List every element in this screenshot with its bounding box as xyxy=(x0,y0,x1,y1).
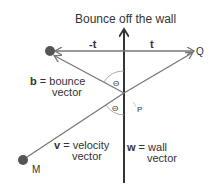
w-symbol: w xyxy=(127,141,136,153)
diagram-title: Bounce off the wall xyxy=(75,14,176,25)
t-label: t xyxy=(150,39,154,50)
theta-lower-label: Θ xyxy=(112,103,118,114)
neg-t-label: -t xyxy=(89,39,96,50)
bounce-vector-label-line2: vector xyxy=(52,87,82,98)
theta-upper-label: Θ xyxy=(113,78,119,89)
ball-bounced xyxy=(45,46,55,56)
wall-vector-label-line2: vector xyxy=(147,153,177,164)
ball-start xyxy=(18,155,28,165)
reflected-line-to-q xyxy=(124,53,192,93)
m-label: M xyxy=(32,164,40,175)
b-symbol: b xyxy=(30,75,37,87)
angle-arc-right xyxy=(133,102,136,107)
q-label: Q xyxy=(196,46,204,57)
p-label: P xyxy=(137,104,142,115)
velocity-vector-label-line2: vector xyxy=(72,151,102,162)
